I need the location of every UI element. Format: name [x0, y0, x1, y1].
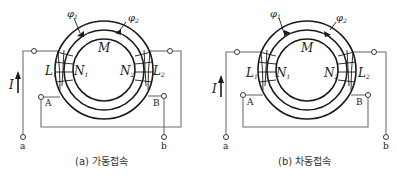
label-phi2: φ2	[128, 12, 139, 24]
label-phi1: φ1	[270, 8, 281, 20]
outer-ring	[55, 21, 153, 119]
current-arrow-icon	[218, 75, 224, 97]
terminal-top-left	[32, 49, 37, 54]
label-N1: N1	[275, 66, 290, 80]
label-b: b	[383, 141, 389, 151]
current-arrow-icon	[15, 71, 21, 93]
coupled-inductor-diagrams: φ1 φ2 M L1 N1 N2 L2 I A B a b (a) 가동접속	[0, 0, 397, 178]
toroid-core	[55, 21, 153, 119]
terminal-a	[21, 135, 26, 140]
terminal-B	[366, 93, 371, 98]
terminal-B	[162, 94, 167, 99]
diagram-b-subtractive-connection: φ1 φ2 M L1 N1 N2 L2 I A B a b (b) 차동접속	[211, 8, 389, 167]
label-N2: N2	[323, 66, 339, 80]
label-phi1: φ1	[67, 8, 78, 20]
label-I: I	[211, 82, 217, 96]
terminal-a	[224, 135, 229, 140]
label-L2: L2	[357, 66, 370, 80]
terminal-top-right	[168, 49, 173, 54]
label-B: B	[356, 97, 363, 107]
outer-ring	[258, 21, 356, 119]
label-N1: N1	[73, 64, 88, 78]
wiring	[226, 52, 386, 134]
label-a: a	[20, 141, 26, 151]
terminal-A	[39, 95, 44, 100]
label-A: A	[44, 98, 52, 108]
terminal-b	[162, 135, 167, 140]
terminal-top-left	[235, 50, 240, 55]
label-M: M	[300, 41, 314, 55]
label-b: b	[161, 141, 167, 151]
toroid-core	[258, 21, 356, 119]
label-phi2: φ2	[336, 12, 347, 24]
label-M: M	[97, 41, 111, 55]
label-N2: N2	[119, 64, 135, 78]
label-I: I	[8, 78, 14, 92]
label-A: A	[246, 97, 254, 107]
label-B: B	[153, 98, 160, 108]
terminal-top-right	[372, 50, 377, 55]
terminal-A	[241, 93, 246, 98]
caption-b: (b) 차동접속	[278, 156, 331, 167]
label-L1: L1	[245, 66, 258, 80]
label-a: a	[223, 141, 229, 151]
caption-a: (a) 가동접속	[75, 156, 128, 167]
diagram-a-additive-connection: φ1 φ2 M L1 N1 N2 L2 I A B a b (a) 가동접속	[8, 8, 181, 167]
label-L2: L2	[152, 64, 165, 78]
terminal-b	[384, 135, 389, 140]
